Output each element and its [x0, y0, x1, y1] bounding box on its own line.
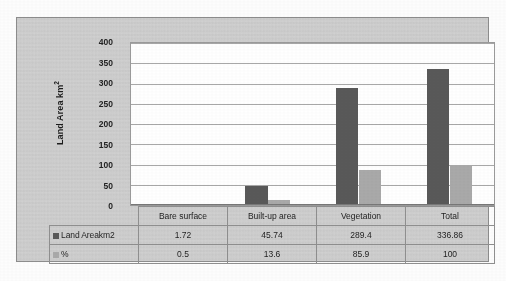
legend-label: Land Areakm2 [61, 230, 115, 240]
bars-layer [131, 43, 494, 205]
table-value-cell: 289.4 [317, 226, 406, 245]
y-axis-tick-labels: 400350300250200150100500 [77, 26, 113, 206]
y-axis-title-text: Land Area km [55, 85, 65, 145]
table-row: Land Areakm21.7245.74289.4336.86 [50, 226, 495, 245]
table-value-cell: 100 [406, 245, 495, 264]
bar [245, 186, 267, 205]
bar-group [403, 43, 494, 205]
y-axis-tick-label: 50 [77, 182, 113, 191]
y-axis-tick-label: 150 [77, 141, 113, 150]
legend-swatch-icon [53, 252, 59, 258]
plot-area [130, 42, 495, 206]
table-value-cell: 0.5 [139, 245, 228, 264]
legend-cell: % [50, 245, 139, 264]
data-table-head: Bare surfaceBuilt-up areaVegetationTotal [50, 207, 495, 226]
bar-group [313, 43, 404, 205]
bar [336, 88, 358, 205]
chart-frame: Land Area km2 400350300250200150100500 B… [16, 17, 489, 262]
category-header-cell: Total [406, 207, 495, 226]
legend-cell: Land Areakm2 [50, 226, 139, 245]
y-axis-tick-label: 300 [77, 79, 113, 88]
category-header-cell: Bare surface [139, 207, 228, 226]
table-value-cell: 1.72 [139, 226, 228, 245]
category-header-cell: Vegetation [317, 207, 406, 226]
x-axis-line [131, 204, 494, 205]
table-value-cell: 13.6 [228, 245, 317, 264]
bar-group [222, 43, 313, 205]
y-axis-tick-label: 400 [77, 38, 113, 47]
table-value-cell: 336.86 [406, 226, 495, 245]
legend-label: % [61, 249, 68, 259]
bar-group [131, 43, 222, 205]
data-table-body: Land Areakm21.7245.74289.4336.86%0.513.6… [50, 226, 495, 264]
bar [427, 69, 449, 205]
y-axis-tick-label: 100 [77, 161, 113, 170]
y-axis-title-superscript: 2 [53, 81, 60, 85]
bar [450, 165, 472, 206]
table-value-cell: 45.74 [228, 226, 317, 245]
table-corner-cell [50, 207, 139, 226]
y-axis-title: Land Area km2 [50, 38, 68, 188]
table-value-cell: 85.9 [317, 245, 406, 264]
y-axis-tick-label: 250 [77, 100, 113, 109]
scanned-page: Land Area km2 400350300250200150100500 B… [0, 0, 506, 281]
legend-swatch-icon [53, 233, 59, 239]
bar [359, 170, 381, 205]
table-row: %0.513.685.9100 [50, 245, 495, 264]
data-table: Bare surfaceBuilt-up areaVegetationTotal… [49, 206, 495, 264]
category-header-row: Bare surfaceBuilt-up areaVegetationTotal [50, 207, 495, 226]
y-axis-tick-label: 350 [77, 59, 113, 68]
y-axis-tick-label: 200 [77, 120, 113, 129]
category-header-cell: Built-up area [228, 207, 317, 226]
